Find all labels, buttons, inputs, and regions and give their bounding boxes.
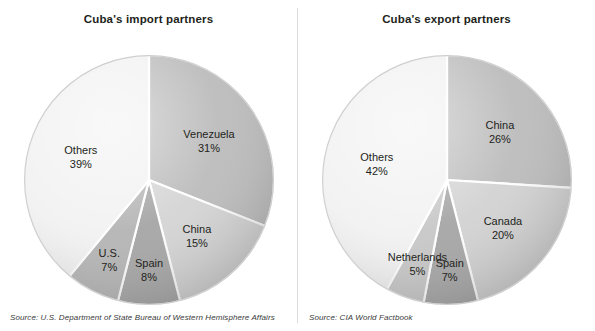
- pie-label-name: Canada: [483, 215, 522, 227]
- chart-panel-export: Cuba's export partners China26%Canada20%…: [298, 0, 595, 331]
- chart-panel-import: Cuba's import partners Venezuela31%China…: [0, 0, 297, 331]
- pie-label-percent: 20%: [491, 229, 513, 241]
- pie-chart-export: China26%Canada20%Spain7%Netherlands5%Oth…: [298, 52, 595, 307]
- pie-label-name: Netherlands: [387, 251, 447, 263]
- pie-svg-export: China26%Canada20%Spain7%Netherlands5%Oth…: [307, 52, 587, 307]
- pie-label-percent: 26%: [488, 133, 510, 145]
- pie-svg-import: Venezuela31%China15%Spain8%U.S.7%Others3…: [9, 52, 289, 307]
- pie-label-percent: 31%: [197, 142, 219, 154]
- pie-label-percent: 7%: [441, 271, 457, 283]
- pie-label-name: Others: [360, 151, 394, 163]
- pie-label-percent: 39%: [69, 158, 91, 170]
- pie-label-percent: 8%: [141, 271, 157, 283]
- pie-label-name: Others: [64, 144, 98, 156]
- pie-label-name: China: [485, 119, 515, 131]
- chart-title-export: Cuba's export partners: [298, 13, 595, 25]
- pie-label-percent: 42%: [365, 165, 387, 177]
- pie-label-name: Venezuela: [183, 128, 235, 140]
- pie-label-name: China: [182, 223, 212, 235]
- source-note-export: Source: CIA World Factbook: [309, 313, 413, 322]
- pie-chart-import: Venezuela31%China15%Spain8%U.S.7%Others3…: [0, 52, 297, 307]
- source-note-import: Source: U.S. Department of State Bureau …: [10, 313, 275, 322]
- chart-title-import: Cuba's import partners: [0, 13, 297, 25]
- pie-label-percent: 7%: [101, 261, 117, 273]
- pie-label-percent: 5%: [409, 265, 425, 277]
- pie-label-percent: 15%: [185, 237, 207, 249]
- pie-label-name: Spain: [134, 257, 162, 269]
- pie-label-name: U.S.: [98, 247, 119, 259]
